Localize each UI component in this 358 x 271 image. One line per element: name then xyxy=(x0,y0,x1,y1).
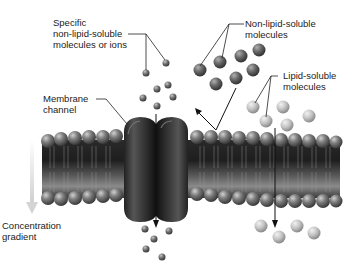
lipid-bilayer xyxy=(41,129,343,208)
label-lipid-soluble: Lipid-soluble molecules xyxy=(283,70,336,92)
label-line: Lipid-soluble xyxy=(283,70,336,81)
non-lipid-soluble-molecules xyxy=(194,44,266,91)
lipid-soluble-molecules-above xyxy=(247,101,316,132)
ions-below xyxy=(142,226,173,261)
label-line: channel xyxy=(43,104,88,115)
label-line: Non-lipid-soluble xyxy=(245,18,316,29)
label-line: molecules or ions xyxy=(53,39,127,50)
ions-above xyxy=(140,60,177,110)
membrane-transport-diagram: Specific non-lipid-soluble molecules or … xyxy=(0,0,358,271)
label-line: molecules xyxy=(245,29,316,40)
label-line: Concentration xyxy=(2,220,61,231)
label-specific-ions: Specific non-lipid-soluble molecules or … xyxy=(53,17,127,50)
label-line: gradient xyxy=(2,231,61,242)
label-line: Membrane xyxy=(43,93,88,104)
label-concentration-gradient: Concentration gradient xyxy=(2,220,61,242)
concentration-gradient-arrow xyxy=(26,140,38,214)
lipid-soluble-molecules-below xyxy=(255,220,321,244)
repelled-arrow xyxy=(195,88,236,130)
label-line: molecules xyxy=(283,81,336,92)
label-line: Specific xyxy=(53,17,127,28)
label-line: non-lipid-soluble xyxy=(53,28,127,39)
label-membrane-channel: Membrane channel xyxy=(43,93,88,115)
label-non-lipid-soluble: Non-lipid-soluble molecules xyxy=(245,18,316,40)
